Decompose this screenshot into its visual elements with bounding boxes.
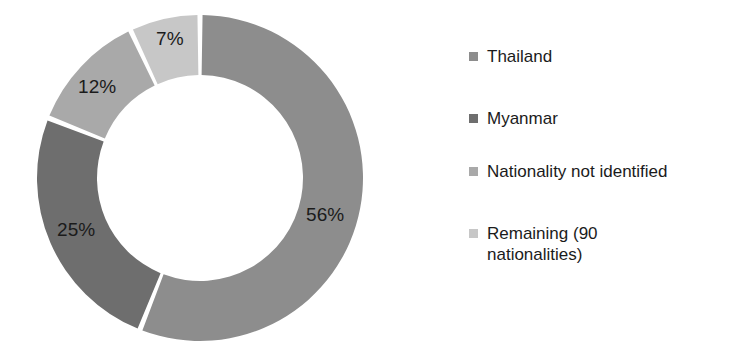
- legend: Thailand Myanmar Nationality not identif…: [460, 0, 754, 357]
- legend-item-label: Myanmar: [487, 108, 558, 129]
- legend-swatch-icon: [469, 52, 478, 61]
- data-label-remaining: 7%: [156, 28, 184, 50]
- legend-item-thailand[interactable]: Thailand: [469, 46, 737, 67]
- legend-item-nationality-not-identified[interactable]: Nationality not identified: [469, 161, 737, 182]
- donut-plot-area: 56% 25% 12% 7%: [0, 0, 460, 357]
- legend-item-myanmar[interactable]: Myanmar: [469, 108, 737, 129]
- data-label-thailand: 56%: [306, 204, 344, 226]
- legend-item-label: Nationality not identified: [487, 161, 668, 182]
- donut-slice-group: [37, 15, 363, 341]
- donut-chart: 56% 25% 12% 7% Thailand Myanmar National…: [0, 0, 754, 357]
- legend-swatch-icon: [469, 114, 478, 123]
- data-label-myanmar: 25%: [57, 219, 95, 241]
- donut-slice[interactable]: [37, 120, 161, 328]
- data-label-nationality-not-identified: 12%: [78, 76, 116, 98]
- legend-item-remaining[interactable]: Remaining (90 nationalities): [469, 223, 737, 265]
- legend-swatch-icon: [469, 167, 478, 176]
- legend-swatch-icon: [469, 229, 478, 238]
- legend-item-label: Remaining (90 nationalities): [487, 223, 617, 265]
- donut-svg: [0, 0, 460, 357]
- legend-item-label: Thailand: [487, 46, 552, 67]
